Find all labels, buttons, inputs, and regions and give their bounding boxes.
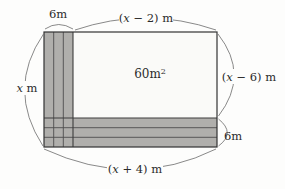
label-bottom-strip-height: 6m [224, 129, 242, 143]
figure-canvas: 6m (x − 2) m (x − 6) m x m 6m (x + 4) m … [0, 0, 285, 189]
label-bottom-width: (x + 4) m [108, 162, 162, 176]
dimension-arc-top-strip [45, 25, 73, 30]
bottom-strip [44, 118, 217, 147]
label-right-height: (x − 6) m [222, 70, 276, 84]
label-top-strip-width: 6m [49, 7, 67, 21]
figure-page: 6m (x − 2) m (x − 6) m x m 6m (x + 4) m … [0, 0, 285, 189]
label-top-width: (x − 2) m [119, 11, 173, 25]
label-left-height: x m [16, 81, 37, 95]
